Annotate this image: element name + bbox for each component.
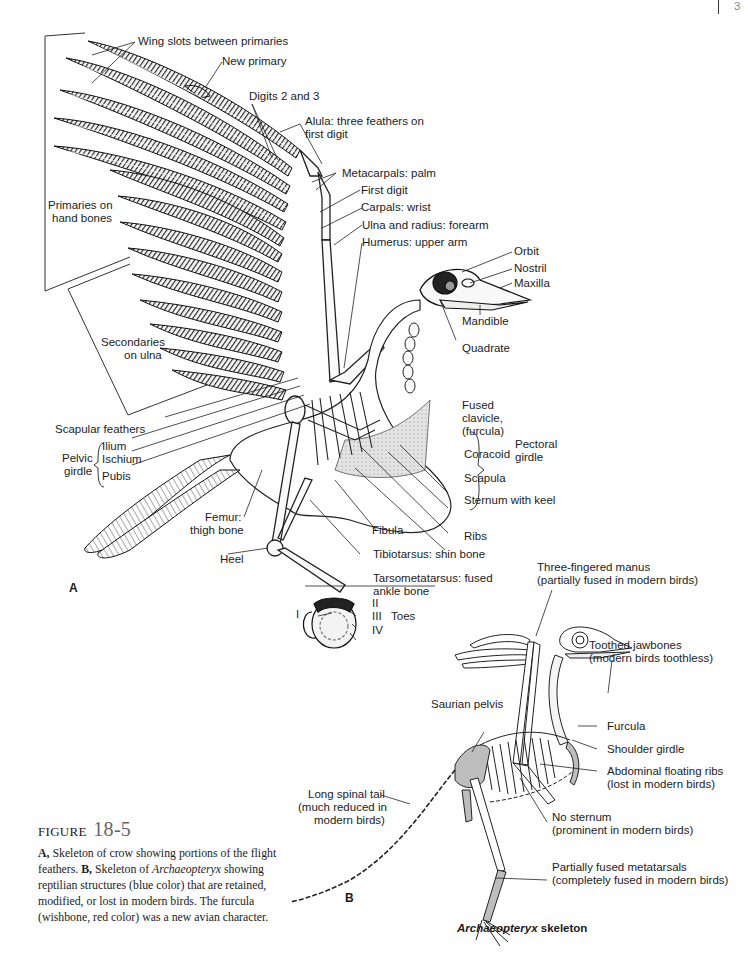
- label-first-digit: First digit: [361, 184, 408, 197]
- label-humerus: Humerus: upper arm: [362, 236, 467, 249]
- figure-title: FIGURE 18-5: [38, 818, 131, 841]
- label-alula-1: Alula: three feathers on: [305, 115, 424, 128]
- label-femur-2: thigh bone: [190, 524, 244, 537]
- label-jaw-1: Toothed jawbones: [589, 639, 682, 652]
- label-secondaries-1: Secondaries: [101, 336, 165, 349]
- crow-neck-vertebrae: [403, 323, 419, 393]
- label-no-sternum-2: (prominent in modern birds): [552, 824, 693, 837]
- archaeopteryx-caption: Archaeopteryx skeleton: [457, 922, 587, 934]
- label-toe-i: I: [296, 608, 299, 621]
- label-manus-1: Three-fingered manus: [537, 561, 650, 574]
- figure-prefix: FIGURE: [38, 824, 87, 839]
- label-sternum: Sternum with keel: [464, 494, 555, 507]
- label-furcula: Furcula: [607, 720, 645, 733]
- label-fused-clavicle-3: (furcula): [462, 425, 504, 438]
- label-jaw-2: (modern birds toothless): [589, 652, 713, 665]
- label-pelvic-1: Pelvic: [62, 452, 93, 465]
- label-toe-iii: III: [372, 610, 382, 623]
- figure-number: 18-5: [93, 818, 131, 840]
- label-scapular-feathers: Scapular feathers: [55, 423, 145, 436]
- archaeopteryx-caption-italic: Archaeopteryx: [457, 922, 538, 934]
- label-ischium: Ischium: [102, 453, 142, 466]
- caption-a-label: A,: [38, 846, 49, 860]
- label-pelvic-2: girdle: [64, 465, 92, 478]
- label-manus-2: (partially fused in modern birds): [537, 574, 698, 587]
- label-primaries-2: hand bones: [52, 212, 112, 225]
- label-tibiotarsus: Tibiotarsus: shin bone: [373, 548, 485, 561]
- archaeopteryx-caption-rest: skeleton: [538, 922, 588, 934]
- label-orbit: Orbit: [514, 245, 539, 258]
- label-abdominal-2: (lost in modern birds): [607, 778, 715, 791]
- label-pectoral-1: Pectoral: [515, 438, 557, 451]
- label-new-primary: New primary: [222, 55, 287, 68]
- label-pectoral-2: girdle: [515, 451, 543, 464]
- panel-a-letter: A: [69, 581, 78, 595]
- label-metatarsals-1: Partially fused metatarsals: [552, 861, 687, 874]
- label-ulna-radius: Ulna and radius: forearm: [362, 219, 489, 232]
- label-toe-iv: IV: [372, 624, 383, 637]
- label-metatarsals-2: (completely fused in modern birds): [552, 874, 728, 887]
- label-tarsometatarsus-2: ankle bone: [373, 585, 429, 598]
- label-abdominal-1: Abdominal floating ribs: [607, 765, 723, 778]
- panel-b-letter: B: [345, 891, 354, 905]
- figure-caption-text: A, Skeleton of crow showing portions of …: [38, 845, 278, 925]
- label-digits-2-3: Digits 2 and 3: [249, 90, 319, 103]
- label-maxilla: Maxilla: [514, 277, 550, 290]
- caption-b-text-1: Skeleton of: [92, 862, 152, 876]
- label-secondaries-2: on ulna: [124, 349, 162, 362]
- label-toes: Toes: [391, 610, 415, 623]
- label-no-sternum-1: No sternum: [552, 811, 611, 824]
- label-wing-slots: Wing slots between primaries: [138, 35, 288, 48]
- label-primaries-1: Primaries on: [48, 199, 113, 212]
- crow-foot: [303, 598, 356, 648]
- label-heel: Heel: [220, 553, 244, 566]
- label-fused-clavicle-2: clavicle,: [462, 412, 503, 425]
- label-nostril: Nostril: [514, 262, 547, 275]
- label-tail-1: Long spinal tail: [308, 788, 385, 801]
- label-scapula: Scapula: [464, 472, 506, 485]
- label-toe-ii: II: [372, 597, 378, 610]
- label-quadrate: Quadrate: [462, 342, 510, 355]
- label-fibula: Fibula: [372, 524, 403, 537]
- label-tarsometatarsus-1: Tarsometatarsus: fused: [373, 572, 493, 585]
- textbook-page: 3: [0, 0, 748, 966]
- label-carpals: Carpals: wrist: [361, 201, 431, 214]
- caption-b-italic: Archaeopteryx: [152, 862, 221, 876]
- label-mandible: Mandible: [462, 315, 509, 328]
- label-fused-clavicle-1: Fused: [462, 399, 494, 412]
- label-tail-2: (much reduced in: [298, 801, 387, 814]
- caption-b-label: B,: [81, 862, 92, 876]
- label-shoulder-girdle: Shoulder girdle: [607, 743, 684, 756]
- label-ribs: Ribs: [464, 530, 487, 543]
- label-pubis: Pubis: [102, 470, 131, 483]
- archaeopteryx-skeleton: [290, 627, 632, 946]
- label-ilium: Ilium: [102, 440, 126, 453]
- label-metacarpals: Metacarpals: palm: [342, 167, 436, 180]
- label-tail-3: modern birds): [314, 814, 385, 827]
- label-femur-1: Femur:: [205, 511, 241, 524]
- label-saurian-pelvis: Saurian pelvis: [431, 698, 503, 711]
- label-alula-2: first digit: [305, 128, 348, 141]
- label-coracoid: Coracoid: [464, 448, 510, 461]
